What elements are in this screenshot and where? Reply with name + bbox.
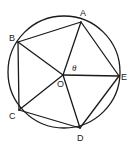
angle-theta-label: θ: [72, 63, 77, 73]
label-e: E: [121, 72, 127, 82]
label-o: O: [57, 79, 64, 89]
label-b: B: [9, 33, 15, 43]
radius-oe: [63, 75, 119, 76]
edge-ab: [18, 22, 81, 42]
label-a: A: [80, 8, 86, 18]
label-c: C: [9, 111, 16, 121]
edge-bc: [18, 42, 19, 110]
radius-od: [63, 75, 80, 128]
label-d: D: [77, 133, 84, 143]
edge-cd: [19, 110, 80, 128]
edge-ea: [81, 22, 119, 76]
edge-de: [80, 76, 119, 128]
pentagon-diagram: ABCDEO θ: [0, 0, 134, 144]
radius-ob: [18, 42, 63, 75]
